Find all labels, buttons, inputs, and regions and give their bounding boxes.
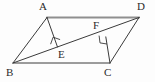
vertex-label-D: D [137, 1, 145, 12]
geometry-canvas [0, 0, 155, 82]
segment-BD [13, 18, 139, 64]
segment-CF [106, 37, 110, 63]
segment-AE [47, 18, 58, 48]
segment-CD [110, 18, 139, 64]
segment-AB [13, 18, 47, 64]
vertex-label-B: B [6, 67, 13, 78]
vertex-label-E: E [58, 49, 65, 60]
vertex-label-A: A [39, 1, 47, 12]
vertex-label-F: F [93, 20, 99, 31]
vertex-label-C: C [104, 67, 111, 78]
geometry-figure: A D B C E F [0, 0, 155, 82]
